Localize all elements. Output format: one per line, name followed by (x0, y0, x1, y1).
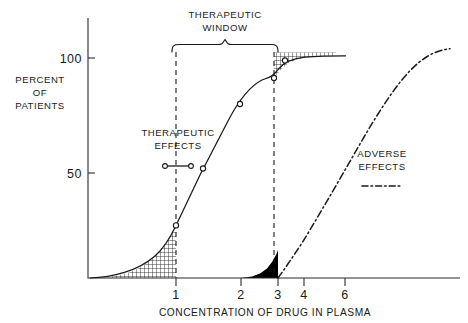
curve-marker (271, 75, 276, 80)
adverse-effects-label-line2: EFFECTS (358, 161, 405, 172)
therapeutic-window-brace (172, 40, 278, 53)
curve-marker (173, 223, 178, 228)
x-tick-label-2: 2 (237, 288, 244, 302)
therapeutic-effects-label-line1: THERAPEUTIC (141, 127, 214, 138)
x-tick-label-3: 3 (274, 288, 281, 302)
y-axis-title-line1: PERCENT (15, 74, 64, 85)
x-axis-title: CONCENTRATION OF DRUG IN PLASMA (159, 307, 371, 318)
legend-key-marker (163, 164, 168, 169)
therapeutic-window-label-line2: WINDOW (202, 22, 248, 33)
y-axis-title-line2: OF (33, 87, 47, 98)
curve-marker (200, 166, 205, 171)
y-axis-title-line3: PATIENTS (15, 100, 65, 111)
therapeutic-effects-legend-key (163, 164, 194, 169)
adverse-effects-label-line1: ADVERSE (357, 148, 406, 159)
therapeutic-window-label-line1: THERAPEUTIC (188, 9, 261, 20)
therapeutic-effects-label-line2: EFFECTS (154, 140, 201, 151)
dose-response-chart: 100 50 1 2 3 4 6 CONCENTRATION OF DRUG I… (0, 0, 468, 323)
y-tick-label-100: 100 (60, 52, 82, 66)
x-tick-label-1: 1 (172, 288, 179, 302)
pharmacology-dose-response-figure: 100 50 1 2 3 4 6 CONCENTRATION OF DRUG I… (0, 0, 468, 323)
curve-marker (237, 101, 242, 106)
curve-marker (282, 58, 287, 63)
x-tick-label-4: 4 (300, 288, 307, 302)
therapeutic-effects-curve (90, 56, 346, 278)
legend-key-marker (189, 164, 194, 169)
x-tick-label-6: 6 (341, 288, 348, 302)
shaded-region-adverse-in-window (236, 244, 284, 282)
y-tick-label-50: 50 (67, 167, 82, 181)
shaded-region-nonresponders-low (86, 215, 182, 283)
